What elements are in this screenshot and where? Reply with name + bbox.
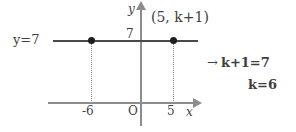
math-diagram-canvas: y=7 y x 7 O -6 5 (5, k+1) →k+1=7 k=6	[0, 0, 296, 132]
dotted-dropper-x-5	[173, 42, 174, 103]
x-tick-label-5: 5	[167, 105, 175, 117]
y-axis-arrowhead-icon	[136, 1, 146, 10]
y-axis-label: y	[128, 3, 135, 15]
origin-label: O	[128, 105, 138, 117]
y-tick-label-7: 7	[126, 28, 134, 40]
plotted-point-minus6-7	[88, 37, 95, 44]
x-axis-label: x	[186, 106, 193, 118]
x-axis-arrowhead-icon	[193, 98, 202, 108]
plotted-point-5-k-plus-1	[170, 37, 177, 44]
right-arrow-icon: →	[207, 55, 218, 70]
line-equation-label: y=7	[13, 33, 40, 46]
x-tick-label-minus6: -6	[82, 105, 94, 117]
solution-step-1: →k+1=7	[207, 56, 270, 69]
solution-step-1-text: k+1=7	[221, 55, 270, 70]
y-axis-line	[140, 8, 142, 126]
solution-step-2: k=6	[248, 78, 277, 91]
dotted-dropper-x-minus6	[91, 42, 92, 103]
point-coordinate-label: (5, k+1)	[151, 10, 209, 24]
